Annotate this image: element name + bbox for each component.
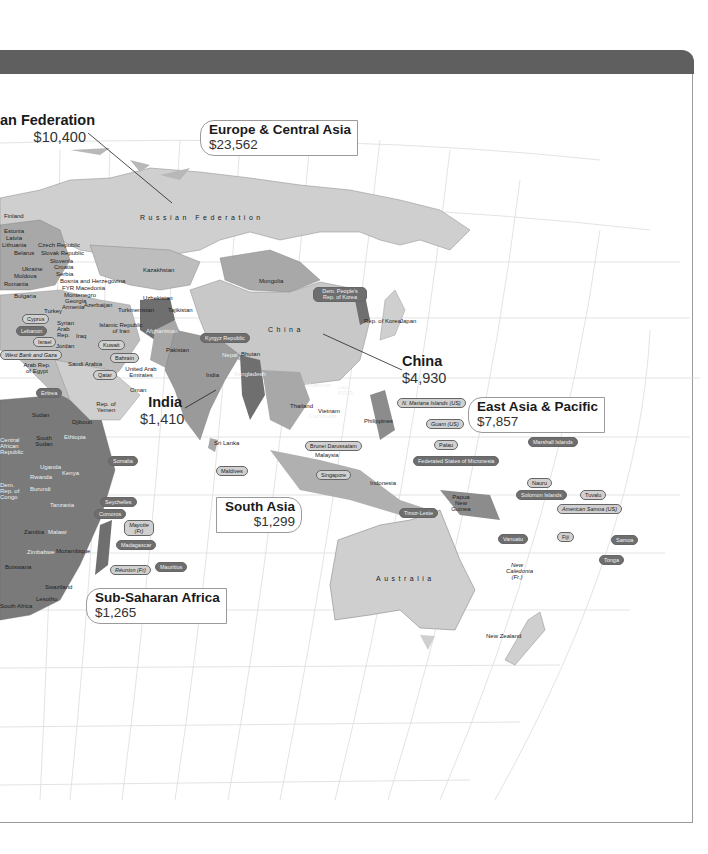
label-uganda: Uganda (40, 464, 61, 470)
japan-shape (380, 290, 405, 340)
india-value: $1,410 (140, 411, 182, 428)
australia-shape (330, 510, 475, 630)
pill-comoros: Comoros (94, 509, 126, 519)
label-mongolia: Mongolia (259, 278, 283, 284)
china-map-label: China (268, 326, 304, 333)
europe-central-asia-callout: Europe & Central Asia $23,562 (200, 120, 358, 156)
sub-saharan-africa-callout: Sub-Saharan Africa $1,265 (86, 588, 227, 624)
label-slovak: Slovak Republic (41, 250, 84, 256)
label-bahrain: Bahrain (110, 353, 139, 363)
label-bhutan: Bhutan (241, 351, 260, 357)
label-bosnia: Bosnia and Herzegovina (60, 278, 125, 284)
label-indonesia: Indonesia (370, 480, 396, 486)
label-turkmenistan: Turkmenistan (118, 307, 154, 313)
pill-n-mariana: N. Mariana Islands (US) (397, 398, 466, 408)
label-moldova: Moldova (14, 273, 37, 279)
region-value: $1,265 (95, 606, 220, 621)
pill-guam: Guam (US) (426, 419, 464, 429)
pill-vanuatu: Vanuatu (498, 534, 528, 544)
pill-madagascar: Madagascar (116, 540, 156, 550)
label-maldives: Maldives (216, 466, 248, 476)
label-zimbabwe: Zimbabwe (27, 549, 55, 555)
label-lebanon: Lebanon (16, 326, 47, 336)
region-name: South Asia (225, 500, 295, 515)
label-armenia: Armenia (62, 304, 84, 310)
label-ethiopia: Ethiopia (64, 434, 86, 440)
pill-reunion: Réunion (Fr) (110, 565, 151, 575)
label-israel: Israel (33, 337, 56, 347)
label-timor: Timor-Leste (399, 508, 438, 518)
australia-map-label: Australia (376, 575, 435, 582)
pill-marshall: Marshall Islands (528, 437, 578, 447)
china-value: $4,930 (402, 370, 446, 387)
pill-fiji: Fiji (557, 532, 574, 542)
label-botswana: Botswana (5, 564, 31, 570)
russian-federation-callout: an Federation $10,400 (0, 112, 86, 145)
label-kuwait: Kuwait (98, 340, 125, 350)
label-malaysia: Malaysia (315, 452, 339, 458)
region-value: $7,857 (477, 415, 598, 430)
label-lesotho: Lesotho (36, 596, 57, 602)
label-kenya: Kenya (62, 470, 79, 476)
south-asia-callout: South Asia $1,299 (216, 497, 302, 533)
label-oman: Oman (130, 387, 146, 393)
label-west-bank: West Bank and Gaza (0, 350, 62, 360)
label-swaziland: Swaziland (45, 584, 72, 590)
pill-samoa: Samoa (611, 535, 638, 545)
label-lao: Lao P.D.R. (338, 384, 352, 396)
label-thailand: Thailand (290, 403, 313, 409)
label-new-caledonia: New Caledonia (Fr.) (506, 562, 528, 580)
region-value: $23,562 (209, 138, 351, 153)
label-jordan: Jordan (56, 343, 74, 349)
india-name: India (140, 394, 182, 411)
label-south-sudan: South Sudan (34, 435, 54, 447)
label-pakistan: Pakistan (166, 347, 189, 353)
label-cyprus: Cyprus (22, 314, 49, 324)
russian-federation-name: an Federation (0, 112, 86, 129)
label-eritrea: Eritrea (36, 388, 62, 398)
label-croatia: Croatia (54, 264, 73, 270)
label-kazakhstan: Kazakhstan (143, 267, 174, 273)
label-latvia: Latvia (6, 235, 22, 241)
label-egypt: Arab Rep. of Egypt (22, 362, 52, 374)
label-somalia: Somalia (108, 456, 138, 466)
label-cambodia: Cambodia (309, 413, 336, 419)
label-drc: Dem. Rep. of Congo (0, 482, 24, 500)
label-romania: Romania (4, 281, 28, 287)
label-turkey: Turkey (44, 308, 62, 314)
region-name: East Asia & Pacific (477, 400, 598, 415)
pill-tonga: Tonga (599, 555, 624, 565)
label-saudi: Saudi Arabia (68, 361, 102, 367)
pill-tuvalu: Tuvalu (580, 490, 606, 500)
label-bangladesh: Bangladesh (234, 371, 266, 377)
label-uae: United Arab Emirates (124, 366, 158, 378)
east-asia-pacific-callout: East Asia & Pacific $7,857 (468, 397, 605, 433)
russian-federation-value: $10,400 (0, 129, 86, 146)
label-rwanda: Rwanda (30, 474, 52, 480)
label-fyr-macedonia: FYR Macedonia (62, 285, 105, 291)
label-rok: Rep. of Korea (364, 318, 401, 324)
pill-nauru: Nauru (527, 478, 552, 488)
label-iraq: Iraq (76, 333, 86, 339)
india-callout: India $1,410 (140, 394, 182, 427)
label-png: Papua New Guinea (446, 494, 476, 512)
philippines-shape (370, 390, 395, 440)
label-lithuania: Lithuania (2, 242, 26, 248)
label-afghanistan: Afghanistan (146, 328, 178, 334)
region-name: Sub-Saharan Africa (95, 591, 220, 606)
label-nepal: Nepal (222, 352, 238, 358)
label-tanzania: Tanzania (50, 502, 74, 508)
china-name: China (402, 353, 446, 370)
label-azerbaijan: Azerbaijan (84, 302, 112, 308)
label-iran: Islamic Republic of Iran (96, 322, 146, 334)
pill-mayotte: Mayotte (Fr) (124, 520, 154, 536)
label-tajikistan: Tajikistan (168, 307, 193, 313)
label-qatar: Qatar (93, 370, 117, 380)
pill-micronesia: Federated States of Micronesia (413, 456, 499, 466)
label-dprk: Dem. People's Rep. of Korea (313, 287, 367, 302)
label-finland: Finland (4, 213, 24, 219)
label-estonia: Estonia (4, 228, 24, 234)
label-india-small: India (206, 372, 219, 378)
label-uzbekistan: Uzbekistan (143, 295, 173, 301)
label-zambia: Zambia (24, 529, 44, 535)
